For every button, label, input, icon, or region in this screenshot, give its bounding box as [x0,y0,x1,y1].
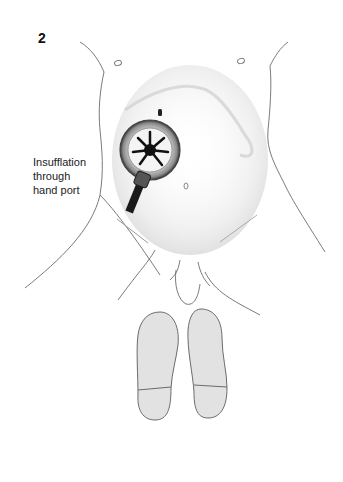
trocar-port-icon [158,109,162,116]
left-nipple [114,59,122,66]
left-foot-sole [137,312,178,420]
anatomical-illustration [0,0,343,482]
right-nipple [237,57,245,64]
right-foot-sole [188,309,227,418]
